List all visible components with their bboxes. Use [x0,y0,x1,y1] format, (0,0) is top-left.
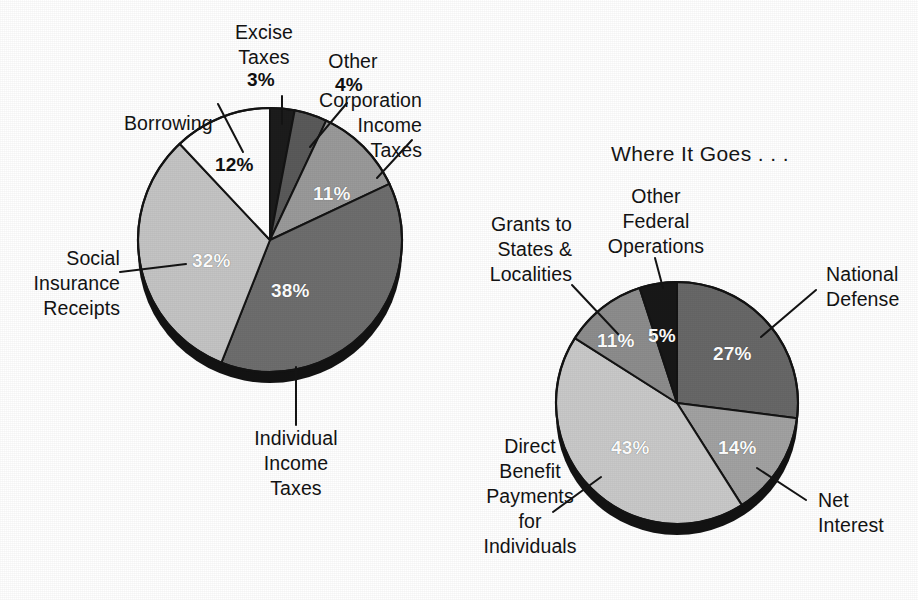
leader-line-national-defense [761,290,816,337]
right-chart-title: Where It Goes . . . [611,142,789,166]
label-grants-to-states: Grants to States & Localities [452,212,572,287]
figure-canvas: Excise Taxes 3% Other 4% Corporation Inc… [0,0,918,600]
percent-net-interest: 14% [718,437,757,459]
label-national-defense: National Defense [826,262,918,312]
percent-grants-to-states: 11% [597,330,635,352]
label-corporation-income-taxes: Corporation Income Taxes [264,88,422,163]
label-individual-income-taxes: Individual Income Taxes [228,426,364,501]
percent-social-insurance-receipts: 32% [192,250,231,272]
label-other: Other [314,49,392,74]
percent-individual-income-taxes: 38% [271,280,310,302]
label-borrowing: Borrowing [124,111,244,136]
percent-national-defense: 27% [713,343,752,365]
label-other-federal-operations: Other Federal Operations [578,184,734,259]
label-excise-taxes: Excise Taxes [208,20,320,70]
percent-corporation-income-taxes: 11% [313,183,351,205]
label-social-insurance-receipts: Social Insurance Receipts [10,246,120,321]
percent-direct-benefit-payments: 43% [611,437,650,459]
percent-borrowing: 12% [215,154,254,176]
label-direct-benefit-payments: Direct Benefit Payments for Individuals [457,434,603,559]
label-net-interest: Net Interest [818,488,918,538]
percent-other-federal-operations: 5% [648,325,676,347]
